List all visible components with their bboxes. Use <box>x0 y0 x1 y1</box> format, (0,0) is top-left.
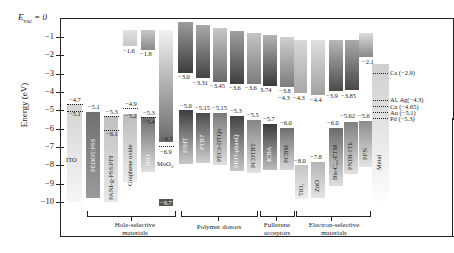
pndi-lumo-value: −3.85 <box>341 92 356 99</box>
brace-tick <box>218 216 219 221</box>
y-axis-title: Energy (eV) <box>19 75 29 135</box>
zno-lumo-value: −4.4 <box>310 96 322 103</box>
icba-label: ICBA <box>265 146 272 162</box>
go-lumo-value: −1.6 <box>123 47 135 54</box>
nio-lumo-bar <box>141 30 155 50</box>
icba-homo-value: −5.7 <box>263 115 275 122</box>
metal-bar <box>372 64 389 204</box>
ca-level <box>373 73 388 74</box>
y-tick <box>56 92 64 93</box>
pecz-homo-value: −5.15 <box>212 104 227 111</box>
ito-value: −5.1 <box>69 110 81 117</box>
icba-lumo-bar <box>263 35 277 86</box>
zno-homo-value: −7.8 <box>310 153 322 160</box>
pecz-lumo-value: −3.45 <box>210 82 225 89</box>
pcdtbt-lumo-value: −3.6 <box>245 84 257 91</box>
metal-label: Metal <box>375 155 382 170</box>
y-tick-label: −2 <box>30 49 54 59</box>
pcdtbt-homo-value: −5.5 <box>247 111 259 118</box>
ptb7-homo-value: −5.15 <box>195 104 210 111</box>
moo3-label: MoO3 <box>157 160 173 169</box>
nio-lumo-value: −1.8 <box>140 50 152 57</box>
pcdtbt-label: PCDTBT <box>249 143 256 168</box>
electron-selective-brace <box>296 211 371 217</box>
pidt-label: PIDT-phanQ <box>232 135 239 168</box>
ito-level <box>67 104 83 105</box>
nio-value: −5.4 <box>143 118 155 125</box>
y-tick <box>56 55 64 56</box>
bis-lumo-bar <box>329 40 343 91</box>
pfn-homo-bar <box>359 121 373 167</box>
pidt-homo-value: −5.3 <box>230 107 242 114</box>
bis-lumo-value: −3.9 <box>326 92 338 99</box>
ito-label: ITO <box>66 156 77 163</box>
pfn-homo-value: −5.6 <box>358 112 370 119</box>
ptb7-label: PTB7 <box>198 135 205 150</box>
pd-level <box>373 118 388 119</box>
pndi-lumo-bar <box>345 40 359 90</box>
y-tick-label: −4 <box>30 86 54 96</box>
bis-homo-value: −6.0 <box>327 119 339 126</box>
y-tick <box>56 165 64 166</box>
moo3-value: −6.7 <box>161 135 173 142</box>
plot-frame-left <box>60 118 61 236</box>
plot-frame-right <box>452 118 453 236</box>
pidt-lumo-value: −3.6 <box>229 84 241 91</box>
bis-label: Bis-C₆₀-ETM <box>331 144 338 180</box>
pecz-label: PECz-DTQx <box>215 128 222 162</box>
zno-lumo-bar <box>311 40 325 95</box>
pcbm-label: PCBM <box>282 145 289 163</box>
nio-value: −5.3 <box>143 109 155 116</box>
y-tick-label: −1 <box>30 31 54 41</box>
y-tick <box>56 110 64 111</box>
zno-label: ZnO <box>313 180 320 192</box>
graphene-oxide-lumo-bar <box>123 30 137 46</box>
tio2-lumo-bar <box>294 40 307 93</box>
pidt-lumo-bar <box>230 31 244 84</box>
cu-level <box>373 106 388 107</box>
pedot-label: PEDOT:PSS <box>89 139 96 172</box>
polymer-donors-brace <box>181 211 258 217</box>
pani-label: PANI-g-PSS:PFI <box>107 156 114 200</box>
pani-value: −6.1 <box>106 130 118 137</box>
pcbm-extra-value: −4.3 <box>278 94 290 101</box>
moo3-value: −6.9 <box>160 148 172 155</box>
y-tick-label: −10 <box>30 196 54 206</box>
p3ht-lumo-value: −3.0 <box>178 73 190 80</box>
moo3-bar <box>159 30 173 142</box>
nio-label: NiO <box>144 155 151 166</box>
moo3-value: −9.7 <box>160 199 172 206</box>
y-tick-label: −8 <box>30 159 54 169</box>
p3ht-homo-value: −5.0 <box>180 102 192 109</box>
y-tick-label: −9 <box>30 178 54 188</box>
al-ag-label: Al, Ag(−4.3) <box>390 96 423 103</box>
y-tick <box>56 147 64 148</box>
ito-bar <box>67 104 82 202</box>
p3ht-label: P3HT <box>181 137 188 153</box>
pani-value: −5.3 <box>106 108 118 115</box>
go-value: −4.9 <box>125 100 137 107</box>
go-value: −5.2 <box>125 112 137 119</box>
pd-label: Pd (−5.3) <box>390 115 415 122</box>
pfn-lumo-bar <box>359 33 373 57</box>
go-label: Graphene oxide <box>126 145 133 186</box>
pndi-homo-value: −5.62 <box>340 112 355 119</box>
y-tick <box>56 202 64 203</box>
au-level <box>373 112 388 113</box>
pedot-value: −5.1 <box>88 103 100 110</box>
y-tick-label: −6 <box>30 123 54 133</box>
vacuum-level-label: Evac = 0 <box>18 12 47 24</box>
y-tick-label: −3 <box>30 68 54 78</box>
tio2-lumo-value: −4.3 <box>293 94 305 101</box>
hole-selective-group-label: Hole-selectivematerials <box>95 221 175 237</box>
tio2-label: TiO₂ <box>297 183 304 196</box>
pani-level <box>104 116 119 117</box>
y-tick <box>56 184 64 185</box>
fullerene-acceptors-brace <box>260 211 295 217</box>
y-tick <box>56 129 64 130</box>
ptb7-lumo-value: −3.31 <box>193 79 208 86</box>
tio2-homo-value: −8.0 <box>294 157 306 164</box>
icba-lumo-value: 3.74 <box>260 86 271 93</box>
pecz-lumo-bar <box>213 28 227 82</box>
polymer-donors-group-label: Polymer donors <box>180 223 258 231</box>
